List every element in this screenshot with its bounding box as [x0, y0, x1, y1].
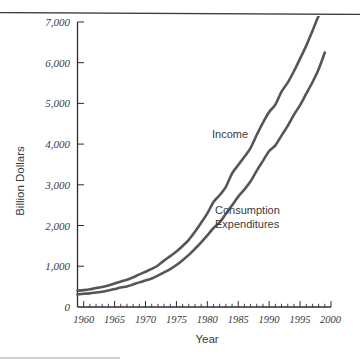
series-annotation-consumption-line1: Consumption [215, 204, 280, 216]
x-tick-labels: 1960 1965 1970 1975 1980 1985 1990 1995 … [73, 314, 342, 325]
chart-figure: Billion Dollars 7,000 6,000 5,000 4,000 … [0, 0, 360, 364]
line-chart-plot: Billion Dollars 7,000 6,000 5,000 4,000 … [0, 16, 360, 361]
y-tick-label: 7,000 [45, 16, 70, 28]
x-tick-label: 1970 [135, 314, 157, 325]
x-axis-title: Year [195, 333, 218, 345]
x-tick-label: 1975 [166, 314, 187, 325]
x-tick-label: 1980 [197, 314, 219, 325]
x-tick-label: 1960 [73, 314, 95, 325]
y-tick-label: 1,000 [45, 260, 70, 272]
decorative-top-rule [0, 12, 360, 15]
series-line-consumption-expenditures [78, 53, 325, 295]
x-axis-ticks [84, 301, 331, 307]
series-annotation-income: Income [212, 128, 248, 140]
x-tick-label: 1965 [104, 314, 125, 325]
x-tick-label: 1995 [290, 314, 311, 325]
y-tick-label: 2,000 [45, 220, 70, 232]
series-line-income [78, 16, 325, 291]
y-tick-label: 5,000 [45, 97, 70, 109]
y-tick-label: 4,000 [45, 138, 70, 150]
series-annotation-consumption-line2: Expenditures [215, 218, 280, 230]
x-tick-label: 1985 [228, 314, 249, 325]
y-axis-title: Billion Dollars [14, 146, 26, 216]
y-axis-ticks [78, 22, 85, 266]
y-tick-labels: 7,000 6,000 5,000 4,000 3,000 2,000 1,00… [44, 16, 70, 313]
y-tick-label: 0 [65, 301, 71, 313]
x-tick-label: 1990 [259, 314, 281, 325]
y-tick-label: 3,000 [44, 179, 70, 191]
y-tick-label: 6,000 [45, 57, 70, 69]
x-tick-label: 2000 [320, 314, 342, 325]
